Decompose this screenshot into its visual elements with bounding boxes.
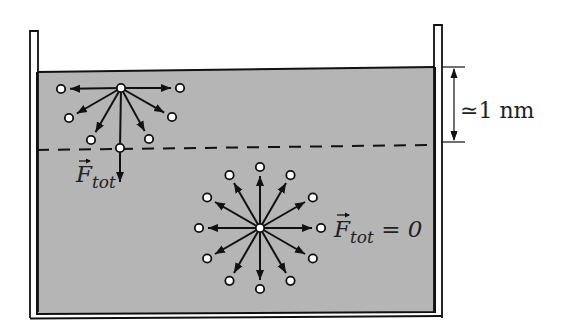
neighbor-molecule [256, 285, 264, 293]
neighbor-molecule [176, 84, 184, 92]
neighbor-molecule [225, 277, 233, 285]
neighbor-molecule [309, 193, 317, 201]
neighbor-molecule [65, 114, 73, 122]
neighbor-molecule [286, 277, 294, 285]
neighbor-molecule [195, 224, 203, 232]
neighbor-molecule [168, 113, 176, 121]
neighbor-molecule [225, 171, 233, 179]
bulk-force-label: Ftot = 0 [333, 213, 422, 248]
neighbor-molecule [286, 171, 294, 179]
force-symbol: F [333, 216, 351, 242]
neighbor-molecule [116, 144, 124, 152]
force-arrow [120, 88, 121, 148]
surface-molecule [117, 84, 125, 92]
force-arrow [70, 88, 121, 89]
neighbor-molecule [317, 224, 325, 232]
neighbor-molecule [87, 136, 95, 144]
force-symbol: F [75, 161, 93, 187]
neighbor-molecule [203, 254, 211, 262]
force-equals-zero: = 0 [374, 216, 423, 242]
neighbor-molecule [57, 85, 65, 93]
force-subscript: tot [92, 172, 116, 192]
thickness-label: ≃1 nm [460, 98, 535, 123]
neighbor-molecule [309, 254, 317, 262]
surface-tension-diagram: ≃1 nm Ftot Ftot = 0 [0, 0, 574, 332]
neighbor-molecule [145, 135, 153, 143]
force-subscript: tot [350, 227, 374, 247]
neighbor-molecule [256, 163, 264, 171]
bulk-molecule [256, 224, 264, 232]
neighbor-molecule [203, 193, 211, 201]
